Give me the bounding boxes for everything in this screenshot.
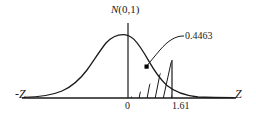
normal-distribution-figure: N(0,1) 0.4463 -Z Z 0 1.61 — [0, 0, 256, 119]
axis-label-positive-z: Z — [235, 88, 242, 100]
x-tick-label-1-61: 1.61 — [172, 101, 190, 111]
area-annotation-label: 0.4463 — [185, 31, 213, 41]
normal-curve — [24, 35, 234, 98]
area-annotation-leader-line — [147, 36, 184, 66]
x-tick-label-0: 0 — [125, 101, 130, 111]
area-annotation-marker — [145, 65, 149, 69]
distribution-label-params: (0,1) — [118, 3, 139, 15]
distribution-label: N(0,1) — [111, 4, 139, 15]
axis-label-negative-z: -Z — [15, 88, 26, 100]
